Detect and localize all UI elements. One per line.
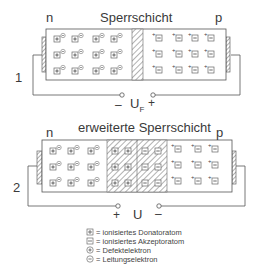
legend-item-acceptor: = ionisiertes Akzeptoratom <box>96 237 184 246</box>
legend: = ionisiertes Donatoratom = ionisiertes … <box>96 228 184 264</box>
legend-item-donor: = ionisiertes Donatoratom <box>96 228 184 237</box>
diagram2-right-sign: – <box>155 207 162 221</box>
diagram2-number: 2 <box>13 180 20 195</box>
diagram2-title: erweiterte Sperrschicht <box>78 120 211 135</box>
diagram2-p-label: p <box>216 125 223 140</box>
diagram2-left-sign: + <box>113 208 120 222</box>
voltage-symbol: U <box>130 96 139 111</box>
diagram1-left-sign: – <box>115 98 122 112</box>
diagram1 <box>33 29 240 97</box>
diagram1-voltage-label: UF <box>130 96 144 114</box>
legend-item-hole: = Defektelektron <box>96 246 184 255</box>
diagram2-voltage-label: U <box>133 207 142 222</box>
terminal-negative <box>120 93 124 97</box>
diagram1-right-sign: + <box>148 96 155 110</box>
diagram2-n-label: n <box>46 125 53 140</box>
diagram2 <box>28 140 245 208</box>
legend-item-electron: = Leitungselektron <box>96 255 184 264</box>
voltage-subscript: F <box>139 105 144 114</box>
legend-symbols <box>87 229 93 262</box>
